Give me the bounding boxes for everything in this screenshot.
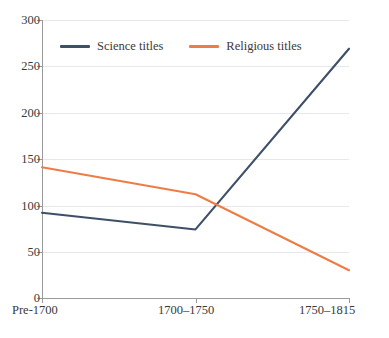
line-chart: 300 250 200 150 100 50 0 Pre-1700 1700–1… (0, 0, 389, 338)
legend-swatch-religious-icon (189, 45, 219, 48)
legend-label-religious: Religious titles (226, 40, 301, 53)
legend-swatch-science-icon (60, 45, 90, 48)
legend-item-science[interactable]: Science titles (60, 40, 163, 53)
legend-label-science: Science titles (97, 40, 163, 53)
legend-item-religious[interactable]: Religious titles (189, 40, 301, 53)
series-line-science (42, 49, 349, 230)
chart-legend: Science titles Religious titles (60, 40, 302, 53)
